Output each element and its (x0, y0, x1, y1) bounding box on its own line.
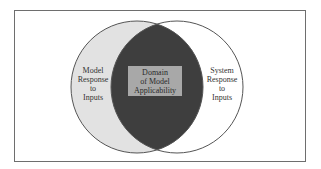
left-label-line: Response (73, 75, 113, 84)
center-label-line: of Model (128, 77, 182, 86)
left-label-line: Model (73, 66, 113, 75)
right-label-line: Response (202, 75, 242, 84)
right-label-line: Inputs (202, 93, 242, 102)
right-set-label: System Response to Inputs (202, 66, 242, 102)
center-label-line: Domain (128, 68, 182, 77)
intersection-label: Domain of Model Applicability (128, 66, 182, 96)
center-label-line: Applicability (128, 86, 182, 95)
left-set-label: Model Response to Inputs (73, 66, 113, 102)
right-label-line: System (202, 66, 242, 75)
left-label-line: Inputs (73, 93, 113, 102)
left-label-line: to (73, 84, 113, 93)
right-label-line: to (202, 84, 242, 93)
